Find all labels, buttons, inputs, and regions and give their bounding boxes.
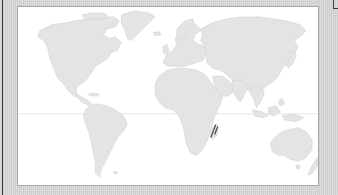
region-south-america[interactable] xyxy=(84,104,128,177)
region-north-america[interactable] xyxy=(38,17,121,98)
region-british-isles[interactable] xyxy=(163,45,169,55)
region-indochina[interactable] xyxy=(250,86,264,108)
region-tasmania[interactable] xyxy=(296,165,300,169)
corner-bracket xyxy=(333,0,338,9)
region-new-zealand[interactable] xyxy=(308,157,318,175)
region-australia[interactable] xyxy=(270,128,312,162)
region-africa[interactable] xyxy=(155,68,223,155)
map-viewer xyxy=(0,0,338,195)
world-map[interactable] xyxy=(18,7,318,185)
region-arctic-islands[interactable] xyxy=(82,13,108,19)
world-map-frame[interactable] xyxy=(17,6,319,186)
region-iceland[interactable] xyxy=(153,32,161,36)
left-edge-rule xyxy=(2,0,3,195)
region-india[interactable] xyxy=(233,80,249,102)
region-greenland[interactable] xyxy=(121,11,155,41)
region-caribbean[interactable] xyxy=(88,93,100,96)
region-falklands[interactable] xyxy=(113,171,117,174)
